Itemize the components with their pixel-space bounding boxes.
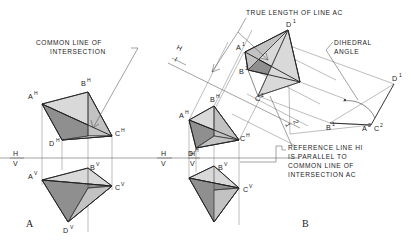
svg-text:C: C — [115, 183, 121, 192]
svg-text:A: A — [179, 111, 184, 120]
svg-text:REFERENCE LINE HI: REFERENCE LINE HI — [288, 144, 363, 151]
svg-text:D: D — [49, 139, 55, 148]
svg-text:D: D — [392, 74, 398, 83]
svg-text:V: V — [190, 160, 195, 167]
svg-text:H: H — [56, 137, 60, 143]
svg-text:1: 1 — [332, 121, 335, 127]
svg-text:V: V — [34, 170, 38, 176]
svg-text:A: A — [28, 172, 33, 181]
svg-text:H: H — [185, 109, 189, 115]
note-true-length: TRUE LENGTH OF LINE AC — [246, 9, 343, 16]
svg-text:C: C — [243, 185, 249, 194]
svg-text:2: 2 — [368, 122, 371, 128]
svg-text:V: V — [70, 224, 74, 230]
svg-text:A: A — [236, 43, 241, 52]
svg-text:INTERSECTION: INTERSECTION — [50, 48, 106, 55]
svg-text:C: C — [115, 129, 121, 138]
svg-text:V: V — [13, 160, 18, 167]
svg-text:H: H — [121, 127, 125, 133]
svg-text:1: 1 — [261, 92, 264, 98]
svg-text:H: H — [246, 132, 250, 138]
panel-b-label: B — [302, 218, 309, 229]
svg-text:ANGLE: ANGLE — [334, 48, 359, 55]
svg-text:B: B — [218, 163, 223, 172]
technical-drawing-figure: H V H V — [0, 0, 411, 249]
svg-text:H: H — [13, 150, 18, 157]
svg-text:D: D — [188, 149, 194, 158]
svg-text:V: V — [161, 160, 166, 167]
svg-text:C: C — [240, 134, 246, 143]
svg-text:B: B — [326, 123, 331, 132]
svg-text:H: H — [216, 93, 220, 99]
svg-text:DIHEDRAL: DIHEDRAL — [334, 39, 372, 46]
svg-text:COMMON LINE OF: COMMON LINE OF — [288, 162, 354, 169]
svg-text:1: 1 — [242, 41, 245, 47]
svg-text:V: V — [249, 183, 253, 189]
svg-text:B: B — [210, 95, 215, 104]
svg-text:1: 1 — [245, 65, 248, 71]
panel-a-label: A — [26, 218, 34, 229]
svg-text:COMMON LINE OF: COMMON LINE OF — [36, 39, 102, 46]
svg-text:D: D — [286, 20, 292, 29]
drawing-canvas: H V H V — [0, 0, 411, 249]
svg-text:B: B — [81, 79, 86, 88]
svg-text:1: 1 — [399, 72, 402, 78]
svg-text:V: V — [224, 161, 228, 167]
svg-text:H: H — [161, 150, 166, 157]
svg-text:C: C — [374, 124, 380, 133]
svg-text:H: H — [195, 147, 199, 153]
svg-text:V: V — [96, 161, 100, 167]
svg-text:H: H — [87, 77, 91, 83]
svg-text:B: B — [90, 163, 95, 172]
svg-text:V: V — [121, 181, 125, 187]
svg-text:B: B — [239, 67, 244, 76]
svg-text:1: 1 — [293, 18, 296, 24]
svg-text:INTERSECTION AC: INTERSECTION AC — [288, 171, 356, 178]
svg-text:IS PARALLEL TO: IS PARALLEL TO — [288, 153, 347, 160]
svg-text:A: A — [28, 92, 33, 101]
svg-text:C: C — [255, 94, 261, 103]
svg-text:H: H — [34, 90, 38, 96]
svg-text:A: A — [362, 124, 367, 133]
svg-text:2: 2 — [380, 122, 383, 128]
svg-text:D: D — [63, 226, 69, 235]
